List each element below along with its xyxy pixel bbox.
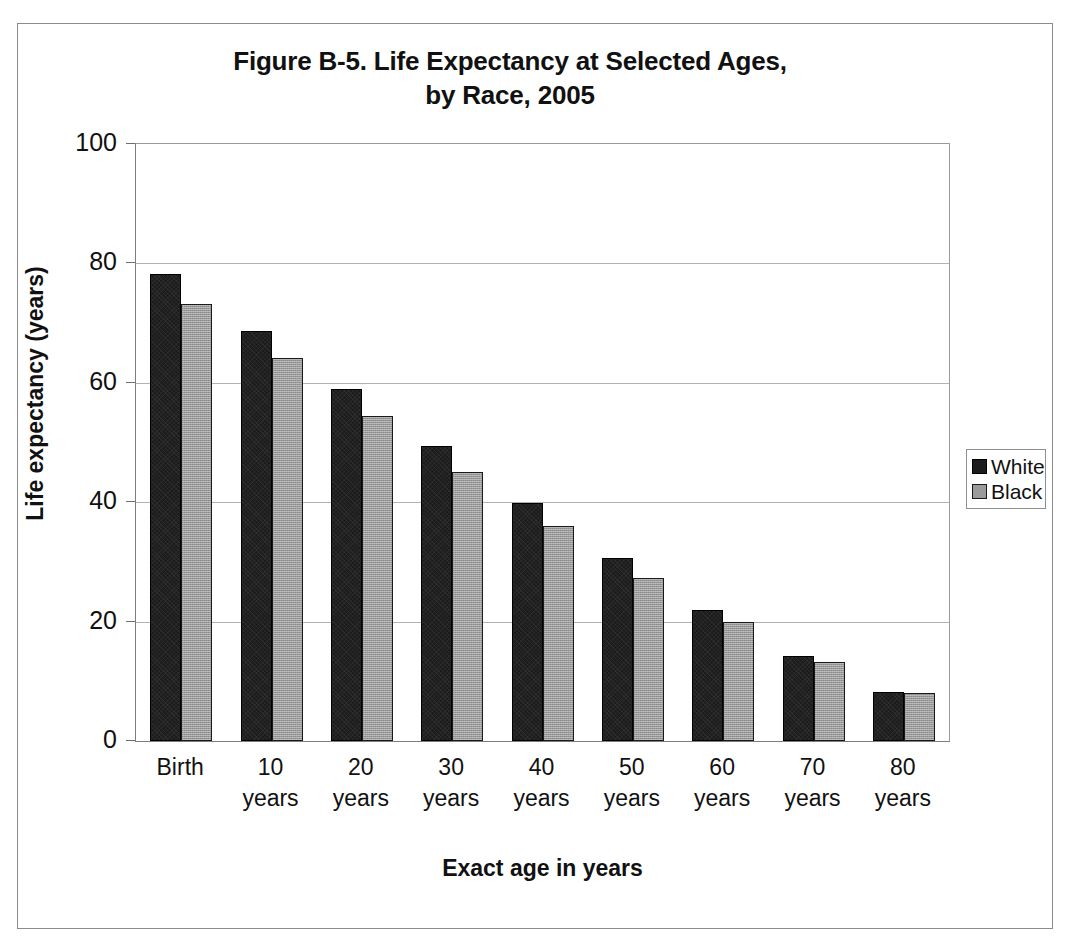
chart-title-line-2: by Race, 2005	[100, 78, 920, 112]
bar-group	[783, 144, 845, 741]
bar	[543, 526, 574, 741]
figure-container: Figure B-5. Life Expectancy at Selected …	[0, 0, 1072, 948]
legend-item: White	[972, 454, 1045, 479]
x-axis-tick-labels: Birth10years20years30years40years50years…	[135, 752, 950, 832]
y-tick-mark-80	[126, 262, 135, 263]
y-tick-label-40: 40	[5, 488, 117, 513]
bar	[150, 274, 181, 741]
x-tick-label: 80years	[848, 752, 958, 814]
bar	[241, 331, 272, 741]
x-tick-label-line-2: years	[848, 783, 958, 814]
bar	[452, 472, 483, 741]
bar	[362, 416, 393, 741]
legend-label: White	[991, 456, 1045, 477]
bar	[783, 656, 814, 741]
x-tick-label-line-1: 80	[848, 752, 958, 783]
y-tick-label-60: 60	[5, 369, 117, 394]
bar-group	[241, 144, 303, 741]
x-axis-title: Exact age in years	[135, 855, 950, 882]
bar-group	[331, 144, 393, 741]
plot-area	[135, 143, 950, 742]
bar	[602, 558, 633, 741]
bar	[723, 622, 754, 741]
bar	[633, 578, 664, 741]
y-tick-label-20: 20	[5, 608, 117, 633]
bar	[512, 503, 543, 741]
legend-item: Black	[972, 479, 1045, 504]
y-axis-ticks: 020406080100	[0, 143, 135, 743]
bar	[421, 446, 452, 741]
y-tick-mark-60	[126, 382, 135, 383]
y-tick-mark-0	[126, 740, 135, 741]
bar	[873, 692, 904, 741]
y-tick-mark-20	[126, 621, 135, 622]
y-tick-label-0: 0	[5, 727, 117, 752]
bar-group	[692, 144, 754, 741]
bar	[692, 610, 723, 741]
bar-group	[602, 144, 664, 741]
bar	[272, 358, 303, 741]
y-tick-mark-40	[126, 501, 135, 502]
bar	[331, 389, 362, 741]
bar-group	[150, 144, 212, 741]
bar-group	[421, 144, 483, 741]
bar-group	[873, 144, 935, 741]
y-tick-label-80: 80	[5, 249, 117, 274]
y-tick-label-100: 100	[5, 130, 117, 155]
bar-group	[512, 144, 574, 741]
page-title: Figure B-5. Life Expectancy at Selected …	[100, 44, 920, 112]
bar	[814, 662, 845, 741]
chart-title-line-1: Figure B-5. Life Expectancy at Selected …	[100, 44, 920, 78]
y-tick-mark-100	[126, 143, 135, 144]
legend-swatch-icon	[972, 459, 987, 474]
bar	[181, 304, 212, 741]
chart-legend: WhiteBlack	[966, 449, 1046, 509]
legend-swatch-icon	[972, 484, 987, 499]
legend-label: Black	[991, 481, 1042, 502]
bar	[904, 693, 935, 741]
